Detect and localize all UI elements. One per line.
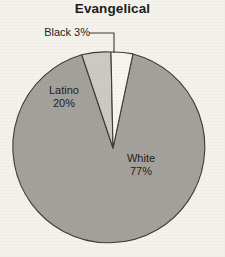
pie-chart-figure: Evangelical Black 3% Latino 20% White 77…	[0, 0, 225, 257]
slice-label-black: Black 3%	[18, 26, 90, 39]
slice-label-black-text: Black 3%	[44, 26, 90, 38]
slice-label-white-value: 77%	[110, 165, 172, 178]
slice-label-white: White 77%	[110, 152, 172, 178]
slice-label-white-name: White	[127, 152, 155, 164]
black-slice-leader-line	[89, 33, 114, 53]
slice-label-latino-value: 20%	[33, 97, 95, 110]
slice-label-latino: Latino 20%	[33, 84, 95, 110]
slice-label-latino-name: Latino	[49, 84, 79, 96]
